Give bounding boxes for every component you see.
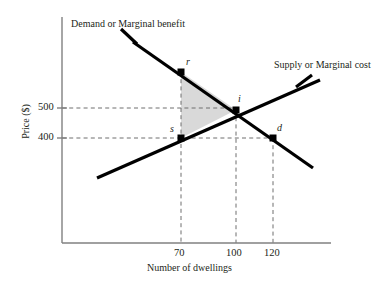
demand-curve-label: Demand or Marginal benefit	[71, 19, 185, 29]
x-axis-title: Number of dwellings	[147, 263, 232, 273]
x-tick-label-70: 70	[174, 248, 185, 259]
y-axis-title: Price ($)	[20, 91, 31, 153]
point-marker-r	[178, 69, 185, 76]
point-marker-i	[233, 107, 240, 114]
x-tick-label-120: 120	[264, 248, 280, 259]
point-marker-s	[178, 135, 185, 142]
point-label-d: d	[277, 123, 282, 133]
y-tick-label-400: 400	[38, 132, 54, 143]
point-marker-d	[270, 135, 277, 142]
x-tick-label-100: 100	[226, 248, 242, 259]
demand-label-leader	[121, 29, 137, 44]
y-tick-label-500: 500	[38, 102, 54, 113]
point-label-s: s	[170, 124, 174, 134]
point-label-r: r	[186, 57, 190, 67]
supply-curve-label: Supply or Marginal cost	[274, 60, 371, 70]
chart-canvas	[0, 0, 389, 284]
supply-demand-chart: 500 400 Price ($) 70 100 120 Number of d…	[0, 0, 389, 284]
point-label-i: i	[238, 94, 241, 104]
